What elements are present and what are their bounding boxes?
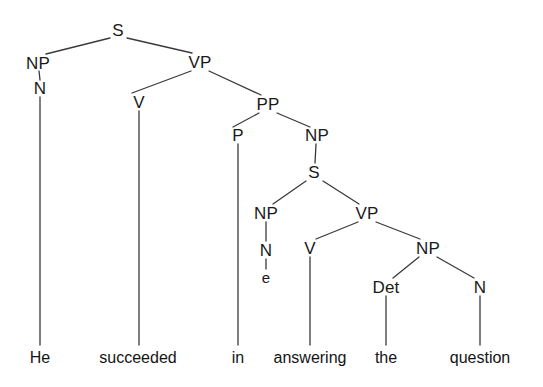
terminal-word-he: He	[30, 350, 50, 366]
tree-node-vp1: VP	[188, 54, 211, 71]
tree-node-n1: N	[34, 80, 46, 97]
terminal-word-question: question	[450, 350, 511, 366]
terminal-word-succeeded: succeeded	[99, 350, 176, 366]
tree-node-n3: N	[474, 279, 486, 296]
tree-node-np3: NP	[254, 205, 278, 222]
tree-node-v1: V	[133, 94, 145, 111]
tree-node-layer: SNPNVPVPPPNPSNPNVPVNPDetNeHesucceededina…	[0, 0, 543, 387]
terminal-word-in: in	[232, 350, 244, 366]
tree-node-det1: Det	[372, 279, 399, 296]
tree-node-s2: S	[308, 164, 320, 181]
tree-node-n2: N	[260, 242, 272, 259]
tree-node-np2: NP	[305, 127, 329, 144]
tree-node-vp2: VP	[355, 205, 378, 222]
tree-trace-empty-element: e	[262, 270, 270, 285]
tree-node-p1: P	[232, 127, 244, 144]
terminal-word-answering: answering	[274, 350, 347, 366]
tree-node-np1: NP	[26, 55, 50, 72]
terminal-word-the: the	[375, 350, 397, 366]
tree-node-v2: V	[304, 240, 316, 257]
tree-node-np4: NP	[416, 240, 440, 257]
tree-node-pp1: PP	[256, 96, 279, 113]
syntax-tree-figure: SNPNVPVPPPNPSNPNVPVNPDetNeHesucceededina…	[0, 0, 543, 387]
tree-node-s1: S	[112, 22, 124, 39]
